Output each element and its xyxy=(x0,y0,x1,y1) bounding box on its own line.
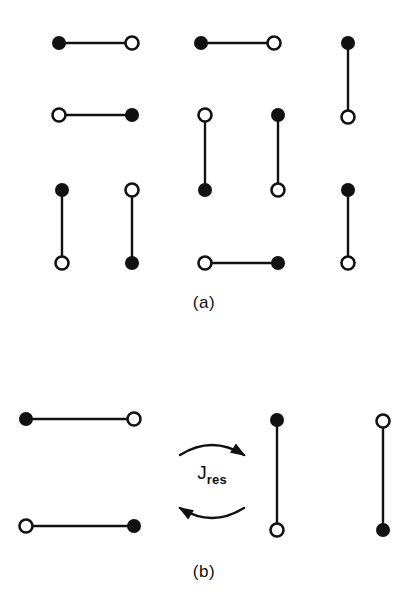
open-end-node xyxy=(126,37,139,50)
filled-end-node xyxy=(127,519,141,533)
open-end-node xyxy=(377,415,390,428)
figure-root: (a) (b) Jres xyxy=(0,0,416,615)
open-end-node xyxy=(53,109,66,122)
panel-a-caption: (a) xyxy=(164,293,244,313)
filled-end-node xyxy=(271,108,285,122)
coupling-symbol: J xyxy=(197,462,207,483)
filled-end-node xyxy=(376,523,390,537)
filled-end-node xyxy=(194,36,208,50)
filled-end-node xyxy=(270,413,284,427)
coupling-constant-label: Jres xyxy=(176,462,248,487)
open-end-node xyxy=(271,524,284,537)
open-end-node xyxy=(199,109,212,122)
open-end-node xyxy=(128,413,141,426)
filled-end-node xyxy=(52,36,66,50)
filled-end-node xyxy=(19,412,33,426)
filled-end-node xyxy=(341,183,355,197)
filled-end-node xyxy=(341,36,355,50)
filled-end-node xyxy=(271,256,285,270)
filled-end-node xyxy=(125,108,139,122)
open-end-node xyxy=(272,184,285,197)
open-end-node xyxy=(342,257,355,270)
panel-b-caption: (b) xyxy=(164,562,244,582)
filled-end-node xyxy=(198,183,212,197)
open-end-node xyxy=(268,37,281,50)
open-end-node xyxy=(342,111,355,124)
coupling-subscript: res xyxy=(207,472,227,487)
open-end-node xyxy=(126,184,139,197)
open-end-node xyxy=(199,257,212,270)
open-end-node xyxy=(56,257,69,270)
filled-end-node xyxy=(125,256,139,270)
open-end-node xyxy=(20,520,33,533)
filled-end-node xyxy=(55,183,69,197)
